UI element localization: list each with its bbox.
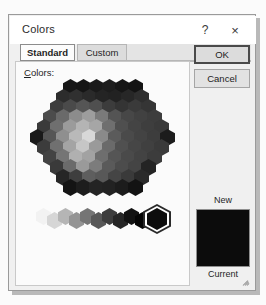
dialog-title-bar: Colors ? × <box>10 16 256 44</box>
close-icon[interactable]: × <box>224 20 246 40</box>
cancel-button[interactable]: Cancel <box>194 69 250 88</box>
dialog-title: Colors <box>22 23 55 35</box>
colors-label-accel: C <box>24 67 31 78</box>
standard-colors-panel: Colors: <box>15 61 190 286</box>
color-honeycomb[interactable] <box>24 79 182 204</box>
color-preview-box <box>196 209 250 267</box>
colors-label-rest: olors: <box>31 67 54 78</box>
colors-dialog: Colors ? × Standard Custom Colors: OK Ca… <box>8 14 256 291</box>
tab-custom[interactable]: Custom <box>77 44 127 61</box>
selected-color-swatch[interactable] <box>143 204 171 234</box>
tab-standard[interactable]: Standard <box>20 44 75 61</box>
grayscale-ramp[interactable] <box>36 208 156 228</box>
resize-grip-icon[interactable] <box>241 276 252 287</box>
color-preview: New Current <box>194 195 252 285</box>
new-color-label: New <box>194 195 252 205</box>
help-icon[interactable]: ? <box>194 20 216 40</box>
colors-label: Colors: <box>24 67 54 78</box>
ok-button[interactable]: OK <box>194 45 250 64</box>
